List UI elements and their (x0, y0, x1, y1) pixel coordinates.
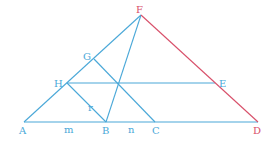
segment-HB (67, 83, 106, 122)
label-r: r (88, 102, 93, 113)
segment-GC (94, 59, 155, 122)
label-H: H (54, 78, 63, 89)
label-m: m (64, 124, 74, 135)
diagram-canvas: F G H E A B C D r m n (0, 0, 274, 147)
label-D: D (253, 125, 261, 136)
label-A: A (18, 125, 27, 136)
label-F: F (136, 4, 143, 15)
segment-FD (141, 15, 258, 122)
label-C: C (152, 125, 160, 136)
geometry-diagram: F G H E A B C D r m n (0, 0, 274, 147)
label-G: G (83, 51, 91, 62)
label-n: n (128, 124, 135, 135)
label-E: E (219, 78, 226, 89)
label-B: B (102, 125, 109, 136)
